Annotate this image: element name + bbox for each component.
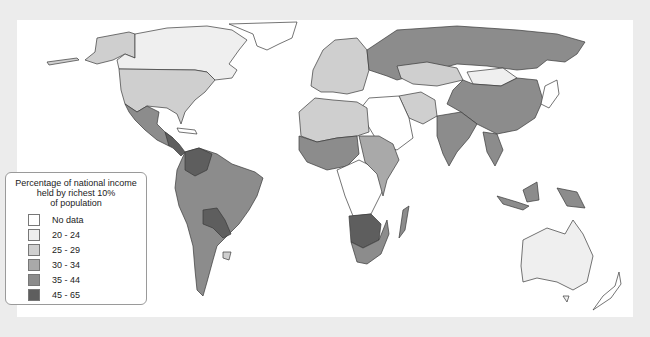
legend-swatch	[28, 274, 40, 286]
legend-item-20-24: 20 - 24	[28, 227, 146, 242]
region-aleutians	[47, 58, 79, 65]
legend-title-line: Percentage of national income	[10, 178, 142, 188]
legend-swatch	[28, 229, 40, 241]
legend-swatch	[28, 214, 40, 226]
region-india	[437, 112, 477, 166]
region-tasmania	[563, 296, 569, 302]
region-north-africa	[299, 98, 369, 142]
legend-item-30-34: 30 - 34	[28, 257, 146, 272]
region-southeast-asia	[483, 132, 503, 166]
legend-label: 25 - 29	[52, 245, 80, 255]
legend-title-line: held by richest 10%	[10, 188, 142, 198]
legend-label: 45 - 65	[52, 290, 80, 300]
legend-swatch	[28, 289, 40, 301]
legend-label: 30 - 34	[52, 260, 80, 270]
map-legend: Percentage of national income held by ri…	[5, 172, 147, 305]
legend-title: Percentage of national income held by ri…	[6, 178, 146, 208]
region-madagascar	[399, 206, 409, 238]
region-indonesia	[497, 182, 585, 210]
legend-label: No data	[52, 215, 84, 225]
region-kazakhstan	[397, 62, 463, 86]
legend-item-no-data: No data	[28, 212, 146, 227]
legend-swatch	[28, 244, 40, 256]
legend-swatch	[28, 259, 40, 271]
region-new-zealand	[593, 272, 621, 310]
region-uruguay	[223, 252, 231, 260]
region-cuba	[177, 128, 197, 134]
legend-label: 35 - 44	[52, 275, 80, 285]
legend-title-line: of population	[10, 198, 142, 208]
region-mexico	[125, 104, 173, 146]
legend-item-45-65: 45 - 65	[28, 287, 146, 302]
region-australia	[521, 220, 593, 290]
legend-label: 20 - 24	[52, 230, 80, 240]
legend-item-35-44: 35 - 44	[28, 272, 146, 287]
region-japan	[541, 80, 559, 108]
region-europe	[311, 38, 369, 94]
legend-item-25-29: 25 - 29	[28, 242, 146, 257]
